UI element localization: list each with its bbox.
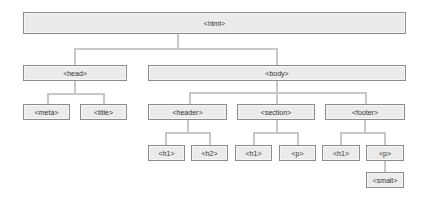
node-header-h1: <h1> [148,145,185,161]
node-meta: <meta> [23,104,70,120]
node-label: <p> [379,150,391,157]
node-label: <html> [204,20,225,27]
node-html: <html> [23,12,406,34]
node-footer-p-small: <small> [366,172,404,188]
node-label: <title> [94,109,113,116]
node-body: <body> [148,65,406,81]
node-title: <title> [80,104,127,120]
node-footer-h1: <h1> [322,145,360,161]
node-label: <h1> [159,150,175,157]
node-label: <header> [173,109,203,116]
node-section-h1: <h1> [235,145,272,161]
node-label: <small> [373,177,398,184]
node-section: <section> [237,104,315,120]
node-label: <section> [261,109,291,116]
dom-tree-diagram: <html> <head> <body> <meta> <title> <hea… [0,0,427,199]
node-label: <p> [291,150,303,157]
node-footer-p: <p> [366,145,404,161]
node-label: <h2> [202,150,218,157]
node-footer: <footer> [325,104,405,120]
node-section-p: <p> [279,145,316,161]
node-head: <head> [23,65,127,81]
node-label: <meta> [35,109,59,116]
node-label: <h1> [246,150,262,157]
node-label: <head> [63,70,87,77]
node-label: <footer> [352,109,378,116]
node-label: <h1> [333,150,349,157]
node-label: <body> [265,70,288,77]
node-header: <header> [148,104,227,120]
node-header-h2: <h2> [191,145,228,161]
